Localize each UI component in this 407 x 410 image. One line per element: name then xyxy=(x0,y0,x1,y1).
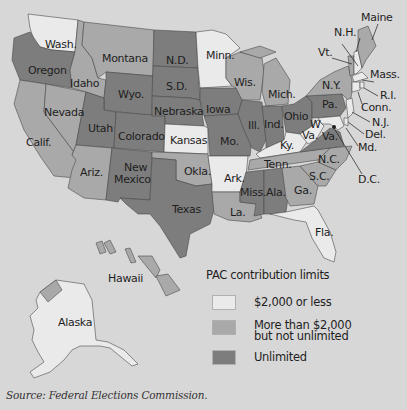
legend-label: $2,000 or less xyxy=(254,297,364,308)
label-nh: N.H. xyxy=(334,26,356,39)
label-mass: Mass. xyxy=(370,68,400,81)
legend-title: PAC contribution limits xyxy=(206,268,329,282)
legend-item-unlimited: Unlimited xyxy=(212,350,364,365)
label-ill: Ill. xyxy=(248,119,260,132)
label-del: Del. xyxy=(365,128,386,141)
label-new-mexico-2: Mexico xyxy=(114,173,151,186)
label-sc: S.C. xyxy=(309,170,329,183)
label-pa: Pa. xyxy=(322,98,337,111)
label-minn: Minn. xyxy=(206,49,235,62)
leader-del xyxy=(348,122,364,134)
leader-md xyxy=(346,128,358,146)
label-nd: N.D. xyxy=(166,54,189,67)
legend-item-le-2000: $2,000 or less xyxy=(212,295,364,310)
state-del[interactable] xyxy=(344,118,348,126)
label-kansas: Kansas xyxy=(170,134,208,147)
leader-maine xyxy=(372,24,378,40)
label-alaska: Alaska xyxy=(58,316,92,329)
label-maine: Maine xyxy=(361,11,393,24)
source-note: Source: Federal Elections Commission. xyxy=(6,389,207,401)
label-nebraska: Nebraska xyxy=(154,105,204,118)
label-texas: Texas xyxy=(171,203,201,216)
legend-label-line2: but not unlimited xyxy=(254,331,364,342)
label-iowa: Iowa xyxy=(206,103,231,116)
state-ri[interactable] xyxy=(360,82,364,88)
legend-item-gt-2000: More than $2,000 but not unlimited xyxy=(212,320,364,342)
legend-swatch-light xyxy=(212,295,236,310)
label-nevada: Nevada xyxy=(44,106,84,119)
label-conn: Conn. xyxy=(361,101,391,114)
label-ark: Ark. xyxy=(224,172,245,185)
label-oregon: Oregon xyxy=(28,64,67,77)
label-ohio: Ohio xyxy=(284,110,309,123)
label-va: Va. xyxy=(322,130,338,143)
leader-ri xyxy=(364,88,378,96)
label-fla: Fla. xyxy=(315,226,333,239)
state-maine[interactable] xyxy=(358,26,376,68)
leader-conn xyxy=(358,92,362,104)
us-map: Wash. Oregon Calif. Nevada Idaho Montana… xyxy=(0,0,407,410)
label-hawaii: Hawaii xyxy=(108,272,143,285)
label-ny: N.Y. xyxy=(322,79,341,92)
legend-swatch-dark xyxy=(212,350,236,365)
label-ky: Ky. xyxy=(280,139,294,152)
label-ariz: Ariz. xyxy=(80,166,103,179)
label-montana: Montana xyxy=(102,52,148,65)
label-idaho: Idaho xyxy=(70,77,100,90)
label-okla: Okla. xyxy=(184,165,211,178)
label-ga: Ga. xyxy=(294,184,312,197)
label-ind: Ind. xyxy=(264,118,284,131)
label-colorado: Colorado xyxy=(118,130,165,143)
legend-label: Unlimited xyxy=(254,352,364,363)
label-la: La. xyxy=(230,206,245,219)
state-nj[interactable] xyxy=(346,98,354,118)
label-mo: Mo. xyxy=(220,135,239,148)
state-hawaii[interactable] xyxy=(96,240,180,296)
label-nc: N.C. xyxy=(318,153,340,166)
label-wis: Wis. xyxy=(234,76,256,89)
label-vt: Vt. xyxy=(318,46,332,59)
state-conn[interactable] xyxy=(352,82,360,92)
label-dc: D.C. xyxy=(358,173,380,186)
label-miss: Miss. xyxy=(240,186,266,199)
label-wash: Wash. xyxy=(45,38,77,51)
dc-marker-icon xyxy=(332,125,336,129)
label-utah: Utah xyxy=(88,122,113,135)
label-wyo: Wyo. xyxy=(118,88,144,101)
label-calif: Calif. xyxy=(26,136,51,149)
label-wva-2: Va. xyxy=(302,129,318,142)
label-mich: Mich. xyxy=(268,88,296,101)
label-sd: S.D. xyxy=(166,80,187,93)
label-ala: Ala. xyxy=(266,186,286,199)
label-tenn: Tenn. xyxy=(263,158,292,171)
label-md: Md. xyxy=(358,141,377,154)
legend-swatch-medium xyxy=(212,320,236,335)
